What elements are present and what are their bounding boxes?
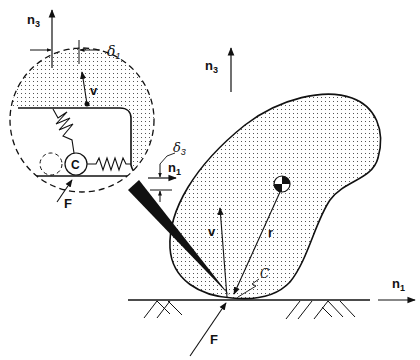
axis-n1-inset: n1 [148, 160, 181, 178]
axis-n3-main: n3 [205, 48, 231, 92]
svg-text:r: r [268, 225, 273, 240]
roller-previous-position [40, 153, 62, 175]
force-vector-main: F [190, 303, 226, 356]
svg-text:n3: n3 [27, 12, 40, 29]
svg-text:F: F [64, 196, 72, 211]
svg-text:C: C [71, 158, 80, 172]
rigid-body [170, 94, 381, 298]
svg-text:δ3: δ3 [173, 140, 186, 157]
ground-hatching [144, 301, 355, 319]
diagram-canvas: n3 n1 v r C F [0, 0, 420, 360]
svg-text:n1: n1 [392, 276, 405, 293]
svg-text:n1: n1 [168, 160, 181, 177]
svg-text:C: C [260, 267, 269, 281]
inset-magnified-view: C [0, 0, 170, 192]
svg-text:F: F [210, 332, 218, 347]
svg-text:v: v [208, 224, 216, 239]
svg-text:v: v [90, 83, 98, 98]
svg-text:n3: n3 [205, 58, 218, 75]
center-of-mass-icon [274, 176, 290, 192]
axis-n1-main: n1 [378, 276, 415, 300]
svg-text:δ1: δ1 [107, 43, 120, 61]
